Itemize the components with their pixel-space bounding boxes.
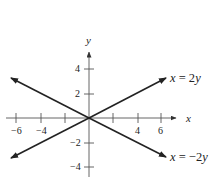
x-axis-label: x	[185, 112, 191, 124]
y-axis: y 4 2 −2 −4	[70, 34, 94, 177]
y-tick-label: 2	[75, 88, 80, 99]
y-tick-label: 4	[75, 63, 80, 74]
x-tick-label: 6	[158, 125, 163, 136]
y-axis-label: y	[85, 34, 91, 46]
x-tick-label: −4	[36, 125, 47, 136]
x-tick-label: −6	[11, 125, 22, 136]
y-tick-label: −2	[70, 137, 81, 148]
x-tick-label: 4	[135, 125, 140, 136]
x-axis: x −6 −4 4 6	[6, 112, 191, 136]
y-tick-label: −4	[70, 161, 81, 172]
chart: x −6 −4 4 6 y 4 2 −2 −4 x = 2y x = −2y	[0, 0, 215, 177]
equation-label-x-equals-neg-2y: x = −2y	[169, 150, 208, 164]
equation-label-x-equals-2y: x = 2y	[169, 71, 201, 85]
